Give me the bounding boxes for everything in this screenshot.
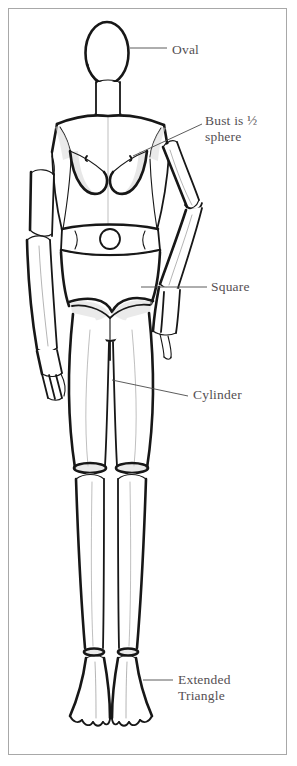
label-triangle: Extended Triangle [178,672,231,703]
feet-extended-triangles [70,656,152,726]
label-square: Square [211,279,250,295]
head-oval [86,22,129,85]
label-cylinder: Cylinder [193,387,242,403]
label-oval: Oval [172,42,199,58]
label-bust: Bust is ½ sphere [205,113,257,144]
neck-cylinder [95,80,121,118]
torso-block [52,115,169,230]
illustration-page: .ink{fill:none;stroke:#171717;stroke-lin… [0,0,297,766]
waistband [61,225,160,256]
legs [66,312,155,656]
